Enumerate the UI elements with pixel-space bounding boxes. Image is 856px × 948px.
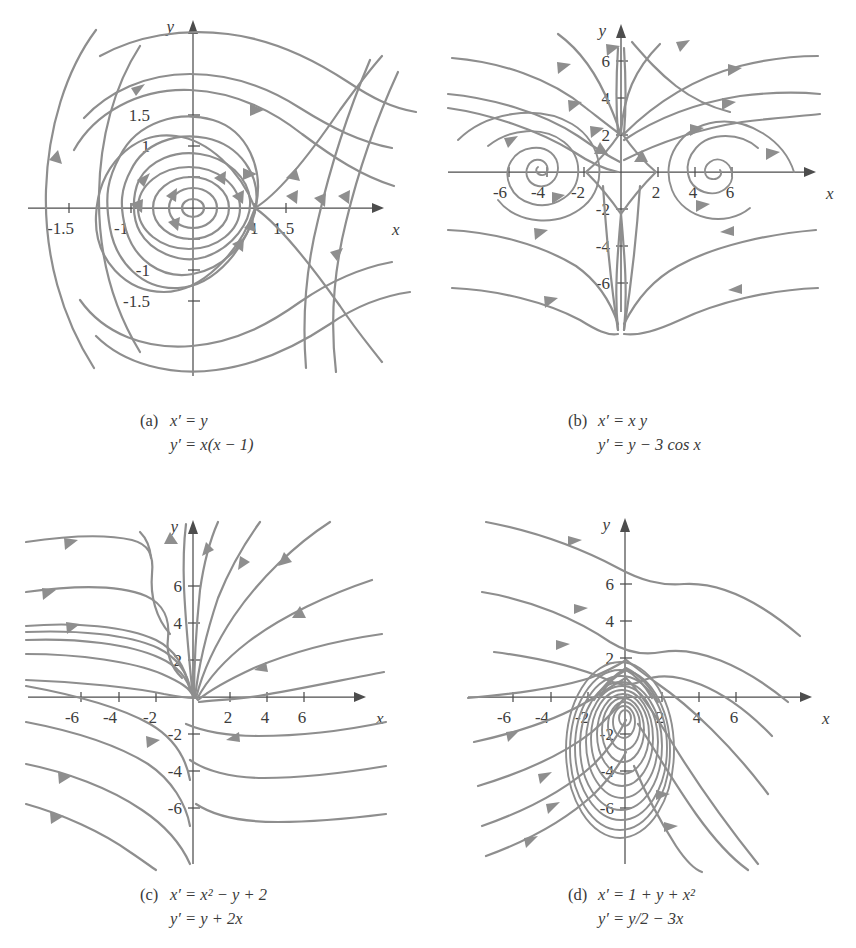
panel-c-caption: (c)x′ = x² − y + 2 y′ = y + 2x bbox=[0, 883, 428, 930]
x-axis-arrowhead bbox=[800, 692, 812, 702]
x-ticklabel-2: 2 bbox=[652, 183, 661, 202]
caption-eq2: y′ = y/2 − 3x bbox=[598, 907, 716, 930]
caption-line-2: y′ = x(x − 1) bbox=[0, 433, 428, 456]
panel-d-plot: -6 -4 -2 2 4 6 6 4 2 -2 -4 -6 x y bbox=[428, 474, 856, 874]
y-ticklabel--2: -2 bbox=[596, 200, 610, 219]
flow-arrow bbox=[534, 228, 548, 240]
caption-line-2: y′ = y − 3 cos x bbox=[428, 433, 856, 456]
caption-label: (d) bbox=[568, 883, 598, 906]
x-ticklabel-4: 4 bbox=[261, 708, 270, 727]
flow-arrow bbox=[42, 588, 56, 600]
hook-curve-1 bbox=[26, 536, 170, 634]
y-axis-arrowhead bbox=[616, 24, 626, 38]
spike-right bbox=[621, 214, 626, 330]
flow-arrow bbox=[720, 226, 734, 236]
flow-arrow bbox=[286, 190, 298, 204]
flow-arrow bbox=[722, 98, 736, 110]
y-ticklabel-4: 4 bbox=[174, 614, 183, 633]
x-axis-arrowhead bbox=[804, 167, 816, 177]
vertical-funnel-right bbox=[624, 48, 626, 134]
caption-eq2: y′ = y + 2x bbox=[170, 907, 288, 930]
lower-left-1 bbox=[26, 686, 190, 780]
caption-eq1: x′ = x y bbox=[598, 409, 716, 432]
flow-arrow bbox=[338, 190, 350, 204]
lower-right-2 bbox=[624, 288, 818, 334]
caption-line-1: (d)x′ = 1 + y + x² bbox=[428, 883, 856, 906]
flow-arrow bbox=[574, 604, 588, 614]
y-axis-name: y bbox=[600, 515, 610, 534]
y-ticklabel--1.5: -1.5 bbox=[123, 292, 150, 311]
flow-arrow bbox=[696, 200, 710, 212]
caption-line-2: y′ = y + 2x bbox=[0, 907, 428, 930]
hook-curve-2 bbox=[26, 587, 182, 678]
phase-portrait-figure: -1.5 -1 1 1.5 1.5 1 -1 -1.5 x y bbox=[0, 0, 856, 948]
flow-arrow bbox=[766, 148, 780, 160]
caption-line-1: (b)x′ = x y bbox=[428, 409, 856, 432]
right-curve-1 bbox=[305, 60, 371, 368]
orbit-7 bbox=[107, 117, 258, 289]
panel-d-caption: (d)x′ = 1 + y + x² y′ = y/2 − 3x bbox=[428, 883, 856, 930]
flow-arrow bbox=[146, 736, 160, 748]
caption-eq1: x′ = 1 + y + x² bbox=[598, 883, 716, 906]
x-axis-name: x bbox=[825, 184, 834, 203]
left-outer-curve-1 bbox=[46, 30, 96, 368]
x-axis-name: x bbox=[375, 709, 384, 728]
panel-a-caption: (a)x′ = y y′ = x(x − 1) bbox=[0, 409, 428, 456]
lower-left-1 bbox=[448, 230, 618, 324]
panel-d-svg: -6 -4 -2 2 4 6 6 4 2 -2 -4 -6 x y bbox=[428, 474, 856, 874]
panel-a: -1.5 -1 1 1.5 1.5 1 -1 -1.5 x y bbox=[0, 0, 428, 474]
x-ticklabel-2: 2 bbox=[224, 708, 233, 727]
y-axis-name: y bbox=[596, 21, 606, 40]
x-ticklabel-6: 6 bbox=[730, 708, 739, 727]
upper-left-3 bbox=[448, 108, 618, 172]
lower-right-1 bbox=[624, 230, 816, 324]
flow-arrow bbox=[238, 556, 250, 570]
x-ticklabel-6: 6 bbox=[298, 708, 307, 727]
flow-arrow bbox=[504, 136, 518, 148]
caption-line-2: y′ = y/2 − 3x bbox=[428, 907, 856, 930]
lower-right-2 bbox=[190, 760, 386, 778]
spike-left bbox=[616, 214, 621, 330]
flow-arrow bbox=[556, 640, 570, 650]
y-ticklabel-6: 6 bbox=[174, 577, 183, 596]
panel-a-trajectories bbox=[46, 30, 416, 372]
flow-arrow bbox=[232, 190, 244, 204]
caption-eq1: x′ = y bbox=[170, 409, 288, 432]
flow-arrow bbox=[538, 772, 552, 784]
flow-arrow bbox=[64, 538, 78, 550]
lower-right-3 bbox=[196, 804, 386, 822]
lower-left-4 bbox=[26, 804, 156, 870]
flow-arrow bbox=[506, 730, 520, 742]
panel-b-plot: -6 -4 -2 2 4 6 6 4 2 -2 -4 -6 x y bbox=[428, 0, 856, 400]
y-ticklabel--6: -6 bbox=[168, 799, 182, 818]
y-ticklabel-6: 6 bbox=[606, 575, 615, 594]
panel-a-svg: -1.5 -1 1 1.5 1.5 1 -1 -1.5 x y bbox=[0, 0, 428, 400]
flow-arrow bbox=[546, 802, 560, 814]
x-ticklabel-6: 6 bbox=[726, 183, 735, 202]
x-ticklabel--6: -6 bbox=[497, 708, 511, 727]
caption-label: (b) bbox=[568, 409, 598, 432]
flow-arrow bbox=[664, 822, 678, 832]
lower-right-1 bbox=[186, 722, 386, 736]
x-ticklabel--1.5: -1.5 bbox=[47, 219, 74, 238]
caption-eq1: x′ = x² − y + 2 bbox=[170, 883, 288, 906]
flow-arrow bbox=[728, 284, 742, 294]
panel-a-plot: -1.5 -1 1 1.5 1.5 1 -1 -1.5 x y bbox=[0, 0, 428, 400]
caption-line-1: (a)x′ = y bbox=[0, 409, 428, 432]
x-axis-arrowhead bbox=[372, 203, 384, 213]
flow-arrow bbox=[557, 62, 571, 74]
right-curve-2 bbox=[333, 72, 398, 372]
sweep-4 bbox=[26, 654, 193, 696]
panel-c-svg: -6 -4 -2 2 4 6 6 4 2 -2 -4 -6 x y bbox=[0, 474, 428, 874]
x-ticklabel--6: -6 bbox=[493, 183, 507, 202]
y-ticklabel-4: 4 bbox=[606, 612, 615, 631]
x-axis-name: x bbox=[821, 709, 830, 728]
panel-c: -6 -4 -2 2 4 6 6 4 2 -2 -4 -6 x y bbox=[0, 474, 428, 948]
panel-d: -6 -4 -2 2 4 6 6 4 2 -2 -4 -6 x y bbox=[428, 474, 856, 948]
flow-arrow bbox=[524, 836, 538, 848]
flow-arrow bbox=[568, 100, 582, 112]
y-ticklabel-1.5: 1.5 bbox=[129, 106, 150, 125]
flow-arrow bbox=[330, 248, 343, 261]
y-ticklabel--6: -6 bbox=[596, 274, 610, 293]
upper-left-1 bbox=[452, 58, 620, 134]
